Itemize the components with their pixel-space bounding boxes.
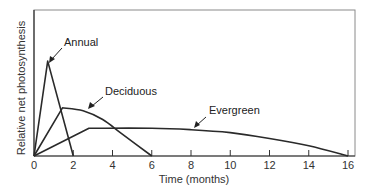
x-tick-label: 10 bbox=[224, 159, 236, 171]
x-axis-label: Time (months) bbox=[159, 173, 230, 185]
x-tick-label: 6 bbox=[149, 159, 155, 171]
annotation-annual: Annual bbox=[64, 36, 98, 48]
annual-arrow-shaft bbox=[52, 48, 62, 59]
x-tick-label: 0 bbox=[31, 159, 37, 171]
plot-frame bbox=[34, 10, 355, 156]
deciduous-arrow-shaft bbox=[92, 97, 103, 106]
x-axis-ticks bbox=[73, 150, 348, 156]
annotation-deciduous: Deciduous bbox=[105, 85, 157, 97]
annotation-evergreen: Evergreen bbox=[209, 104, 260, 116]
x-tick-label: 12 bbox=[263, 159, 275, 171]
series-deciduous-line bbox=[34, 108, 152, 156]
photosynthesis-chart: 0246810121416 Annual Deciduous Evergreen… bbox=[0, 0, 372, 192]
x-tick-label: 8 bbox=[188, 159, 194, 171]
deciduous-arrow-head-icon bbox=[88, 102, 95, 109]
x-axis-tick-labels: 0246810121416 bbox=[31, 159, 354, 171]
evergreen-arrow-head-icon bbox=[194, 121, 200, 128]
x-tick-label: 2 bbox=[70, 159, 76, 171]
x-tick-label: 14 bbox=[303, 159, 315, 171]
x-tick-label: 4 bbox=[109, 159, 115, 171]
x-tick-label: 16 bbox=[342, 159, 354, 171]
y-axis-label: Relative net photosynthesis bbox=[15, 20, 27, 155]
